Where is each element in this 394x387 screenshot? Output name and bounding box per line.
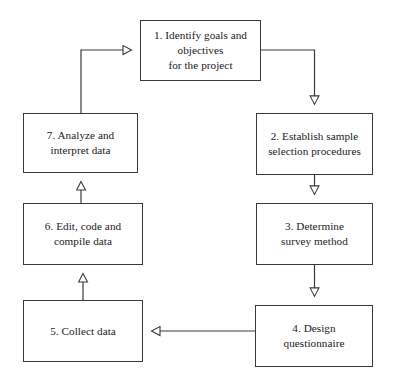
flow-node-step4[interactable]: 4. Design questionnaire <box>255 305 373 367</box>
flow-node-step1[interactable]: 1. Identify goals and objectives for the… <box>140 20 261 81</box>
flow-node-step5-label: 5. Collect data <box>44 324 122 339</box>
flow-node-step6[interactable]: 6. Edit, code and compile data <box>23 203 143 265</box>
flow-node-step3-label: 3. Determine survey method <box>275 219 354 249</box>
edge-step7-to-step1 <box>81 50 131 113</box>
edge-step1-to-step2 <box>261 50 315 104</box>
flowchart-canvas: 1. Identify goals and objectives for the… <box>0 0 394 387</box>
flow-node-step2-label: 2. Establish sample selection procedures <box>262 129 367 159</box>
flow-node-step6-label: 6. Edit, code and compile data <box>39 219 127 249</box>
flow-node-step7[interactable]: 7. Analyze and interpret data <box>23 113 138 173</box>
flow-node-step7-label: 7. Analyze and interpret data <box>41 128 121 158</box>
flow-node-step2[interactable]: 2. Establish sample selection procedures <box>256 113 373 175</box>
flow-node-step4-label: 4. Design questionnaire <box>256 321 372 351</box>
flow-node-step5[interactable]: 5. Collect data <box>23 300 143 362</box>
flow-node-step1-label: 1. Identify goals and objectives for the… <box>148 28 253 72</box>
flow-node-step3[interactable]: 3. Determine survey method <box>256 203 373 265</box>
